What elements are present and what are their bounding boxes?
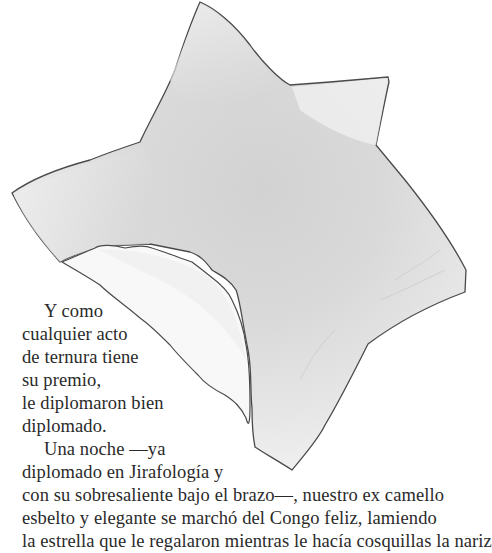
text-line: con su sobresaliente bajo el brazo—, nue…	[22, 484, 444, 507]
text-line: diplomado.	[22, 415, 107, 438]
text-line-partial: la estrella que le regalaron mientras le…	[22, 530, 492, 553]
text-line: diplomado en Jirafología y	[22, 461, 223, 484]
text-line: cualquier acto	[22, 323, 128, 346]
text-line: Una noche —ya	[44, 438, 166, 461]
text-line: su premio,	[22, 369, 101, 392]
text-line: le diplomaron bien	[22, 392, 164, 415]
text-line: Y como	[44, 300, 103, 323]
text-line: de ternura tiene	[22, 346, 139, 369]
text-line: esbelto y elegante se marchó del Congo f…	[22, 507, 437, 530]
